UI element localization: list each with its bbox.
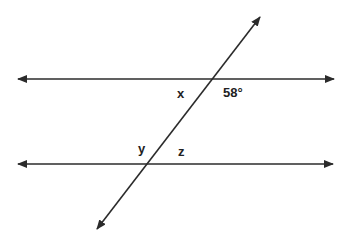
geometry-diagram xyxy=(0,0,349,243)
angle-label-58-degrees: 58° xyxy=(223,86,243,99)
angle-label-y: y xyxy=(138,142,145,155)
transversal-line xyxy=(97,17,260,229)
angle-label-z: z xyxy=(178,145,185,158)
angle-label-x: x xyxy=(177,87,184,100)
